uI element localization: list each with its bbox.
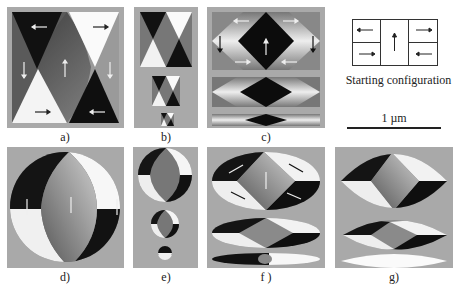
domain-image-a <box>7 7 124 128</box>
domain-image-b <box>134 7 198 128</box>
domain-image-f <box>207 147 325 268</box>
scale-bar-label: 1 µm <box>347 111 441 126</box>
panel-label-f: f ) <box>246 270 286 285</box>
panel-a-square-domain <box>7 7 124 128</box>
domain-image-c <box>207 7 325 128</box>
panel-label-g: g) <box>374 270 414 285</box>
domain-image-d <box>7 147 124 268</box>
panel-label-d: d) <box>45 270 85 285</box>
panel-f-ellipse-series <box>207 147 325 268</box>
scale-bar <box>347 127 441 129</box>
starting-configuration-caption: Starting configuration <box>340 73 457 88</box>
panel-d-disc-domain <box>7 147 124 268</box>
starting-configuration-diagram <box>352 19 438 66</box>
panel-label-c: c) <box>246 130 286 145</box>
domain-image-e <box>133 147 198 268</box>
panel-label-a: a) <box>45 130 85 145</box>
panel-b-square-series <box>134 7 198 128</box>
panel-e-disc-series <box>133 147 198 268</box>
panel-c-rectangle-series <box>207 7 325 128</box>
panel-label-e: e) <box>146 270 186 285</box>
panel-label-b: b) <box>146 130 186 145</box>
domain-image-g <box>335 147 453 268</box>
panel-g-lens-series <box>335 147 453 268</box>
